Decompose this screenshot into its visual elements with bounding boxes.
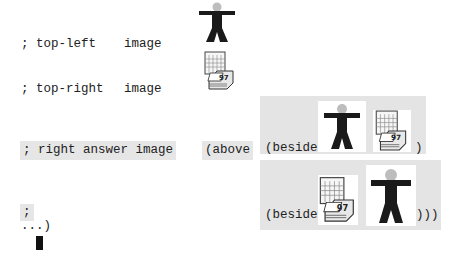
ellipsis-close: ...) bbox=[21, 219, 51, 234]
beside-open-2: (beside bbox=[265, 208, 318, 223]
svg-text:97: 97 bbox=[337, 203, 349, 213]
type-label-top-right: image bbox=[124, 82, 162, 97]
calendar-97-icon: 97 bbox=[203, 51, 237, 91]
comment-top-left: ; top-left bbox=[21, 37, 96, 52]
beside-close-2: ))) bbox=[416, 208, 439, 223]
comment-top-right: ; top-right bbox=[21, 82, 104, 97]
person-icon bbox=[366, 165, 416, 226]
person-icon bbox=[197, 2, 237, 44]
above-expression: (above bbox=[202, 141, 253, 160]
type-label-top-left: image bbox=[124, 37, 162, 52]
calendar-97-icon: 97 bbox=[318, 175, 358, 225]
svg-text:97: 97 bbox=[391, 133, 401, 142]
svg-text:97: 97 bbox=[219, 74, 229, 82]
calendar-97-icon: 97 bbox=[373, 110, 411, 152]
text-cursor[interactable] bbox=[36, 236, 43, 250]
beside-close-1: ) bbox=[415, 141, 423, 156]
comment-right-answer: ; right answer image bbox=[20, 141, 176, 160]
person-icon bbox=[318, 101, 366, 152]
beside-open-1: (beside bbox=[265, 141, 318, 156]
